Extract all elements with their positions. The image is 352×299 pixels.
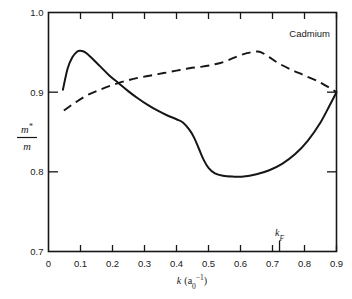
x-axis-ticks-top	[81, 13, 337, 20]
x-axis-title-text: k(a0−1)	[177, 273, 207, 291]
y-axis-ticks-right	[327, 92, 337, 172]
x-axis-tick-labels: 00.10.20.30.40.50.60.70.80.9	[46, 258, 343, 269]
x-tick-label-0.3: 0.3	[138, 258, 151, 269]
y-tick-label-0.9: 0.9	[30, 87, 43, 98]
x-tick-label-0: 0	[46, 258, 51, 269]
y-tick-label-1.0: 1.0	[30, 7, 43, 18]
x-tick-label-0.6: 0.6	[234, 258, 247, 269]
y-tick-label-0.7: 0.7	[30, 246, 43, 257]
x-tick-label-0.7: 0.7	[266, 258, 279, 269]
x-axis-title: k(a0−1)	[177, 273, 207, 291]
y-axis-numerator-m: m	[21, 124, 29, 135]
y-axis-title: m* m	[17, 122, 37, 153]
x-axis-ticks-bottom	[81, 245, 337, 252]
kf-marker-group: kF	[275, 227, 284, 252]
annotation-cadmium: Cadmium	[289, 28, 330, 39]
y-tick-label-0.8: 0.8	[30, 166, 43, 177]
y-axis-denominator: m	[23, 141, 31, 152]
x-tick-label-0.1: 0.1	[74, 258, 87, 269]
x-tick-label-0.5: 0.5	[202, 258, 215, 269]
x-tick-label-0.9: 0.9	[330, 258, 343, 269]
y-axis-ticks-left	[49, 92, 59, 172]
kf-label: kF	[275, 227, 284, 243]
x-tick-label-0.8: 0.8	[298, 258, 311, 269]
plot-frame	[49, 13, 337, 252]
x-tick-label-0.4: 0.4	[170, 258, 183, 269]
solid-curve	[63, 51, 337, 177]
chart-figure: 00.10.20.30.40.50.60.70.80.9 0.70.80.91.…	[0, 0, 352, 299]
x-tick-label-0.2: 0.2	[106, 258, 119, 269]
dashed-curve	[64, 51, 337, 110]
y-axis-tick-labels: 0.70.80.91.0	[30, 7, 43, 257]
y-axis-numerator: m*	[21, 122, 33, 136]
